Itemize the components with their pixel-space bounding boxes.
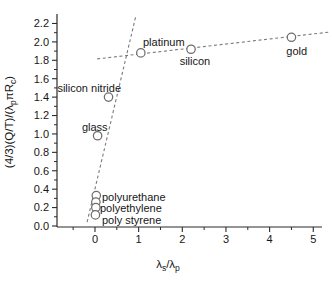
x-tick-label-2: 2 [179,233,185,245]
y-tick-label-0.2: 0.2 [34,201,49,213]
y-tick-label-1.4: 1.4 [34,91,49,103]
x-tick-label-0: 0 [92,233,98,245]
y-tick-label-0.0: 0.0 [34,220,49,232]
figure: 0123450.00.20.40.60.81.01.21.41.61.82.02… [0,0,332,285]
y-tick-label-2.2: 2.2 [34,17,49,29]
annotation-glass: glass [82,121,108,133]
data-point-poly-styrene [91,211,99,219]
y-tick-label-2.0: 2.0 [34,36,49,48]
data-point-gold [287,33,295,41]
annotation-silicon-nitride: silicon nitride [57,82,121,94]
x-tick-label-4: 4 [267,233,273,245]
annotation-polyurethane: polyurethane [102,191,166,203]
annotation-polyethylene: polyethylene [100,202,162,214]
annotation-poly-styrene: poly styrene [102,214,161,226]
y-axis-label: (4/3)(Q/T)/(λpπRc) [3,76,18,168]
data-point-silicon [187,45,195,53]
scatter-chart: 0123450.00.20.40.60.81.01.21.41.61.82.02… [0,0,332,285]
x-axis-label: λs/λp [156,258,180,273]
data-point-silicon-nitride [104,93,112,101]
y-tick-label-1.0: 1.0 [34,128,49,140]
data-point-platinum [137,49,145,57]
annotation-silicon: silicon [180,55,211,67]
annotation-gold: gold [286,45,307,57]
y-tick-label-0.4: 0.4 [34,183,49,195]
y-tick-label-0.8: 0.8 [34,146,49,158]
y-tick-label-1.2: 1.2 [34,109,49,121]
x-tick-label-3: 3 [223,233,229,245]
y-tick-label-0.6: 0.6 [34,165,49,177]
y-tick-label-1.8: 1.8 [34,54,49,66]
annotation-platinum: platinum [143,36,185,48]
y-tick-label-1.6: 1.6 [34,73,49,85]
x-tick-label-5: 5 [310,233,316,245]
x-tick-label-1: 1 [136,233,142,245]
